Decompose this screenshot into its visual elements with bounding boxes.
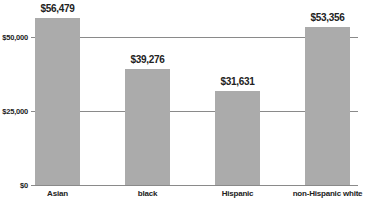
bar-hispanic — [215, 91, 260, 185]
value-label: $53,356 — [293, 12, 363, 23]
category-label: non-Hispanic white — [283, 189, 367, 198]
bar-asian — [35, 18, 80, 185]
gridline-0 — [31, 185, 358, 186]
y-tick-label: $50,000 — [2, 33, 28, 42]
category-label: black — [103, 189, 193, 198]
y-tick-label: $25,000 — [2, 107, 28, 116]
category-label: Asian — [13, 189, 103, 198]
value-label: $56,479 — [23, 3, 93, 14]
category-label: Hispanic — [193, 189, 283, 198]
value-label: $39,276 — [113, 54, 183, 65]
value-label: $31,631 — [203, 76, 273, 87]
bar-black — [125, 69, 170, 185]
bar-non-hispanic-white — [305, 27, 350, 185]
